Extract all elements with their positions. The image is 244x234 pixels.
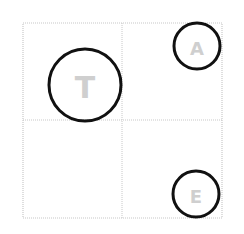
node-e-label: E [190, 186, 202, 207]
node-t-label: T [75, 70, 96, 105]
node-a: A [174, 23, 220, 69]
node-e: E [173, 171, 219, 217]
node-t: T [49, 49, 121, 121]
node-a-label: A [190, 38, 204, 59]
grid-diagram: T A E [0, 0, 244, 234]
